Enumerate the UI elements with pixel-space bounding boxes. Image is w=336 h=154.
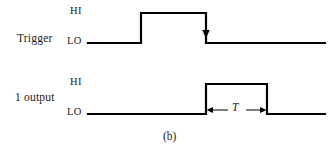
level-label-trigger-lo: LO bbox=[67, 36, 82, 47]
pulse-width-label: T bbox=[232, 102, 238, 114]
t-arrow-left-icon bbox=[207, 107, 214, 113]
level-label-output-lo: LO bbox=[67, 107, 82, 118]
figure-caption: (b) bbox=[163, 131, 176, 143]
falling-edge-arrow-icon bbox=[202, 30, 209, 39]
t-arrow-right-icon bbox=[260, 107, 267, 113]
timing-diagram-figure: Trigger 1 output HI LO HI LO T (b) bbox=[0, 0, 336, 154]
row-label-output: 1 output bbox=[15, 92, 55, 104]
trigger-waveform-path bbox=[88, 13, 325, 43]
level-label-output-hi: HI bbox=[70, 77, 82, 88]
row-label-trigger: Trigger bbox=[17, 33, 52, 45]
level-label-trigger-hi: HI bbox=[70, 6, 82, 17]
output-waveform-path bbox=[88, 84, 325, 114]
